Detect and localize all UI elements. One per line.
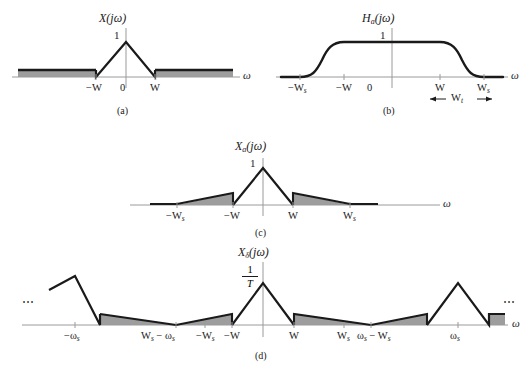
panel-d-ellipsis-right: ⋯	[503, 296, 516, 308]
panel-a-tick-label-negW: −W	[86, 83, 102, 94]
panel-a-amplitude-label: 1	[114, 30, 120, 41]
panel-d-amplitude-denominator: T	[242, 278, 258, 289]
panel-b-tick-label-W: W	[435, 83, 445, 94]
panel-d-tick-label-W: W	[289, 331, 299, 342]
panel-d-tick-Ws-sub: s	[347, 334, 350, 343]
spectra-figure	[0, 0, 527, 369]
panel-d-tick-label-negWs: −Ws	[196, 331, 215, 343]
panel-a-axis-label: ω	[243, 70, 251, 81]
panel-d-tick-ws-main: ω	[450, 330, 457, 341]
panel-d-tick-Wsmws-main: W	[141, 330, 151, 341]
panel-a-tick-label-zero: 0	[120, 83, 125, 94]
panel-c-title-tail: (jω)	[246, 139, 266, 153]
panel-d-ellipsis-left: ⋯	[22, 296, 35, 308]
panel-d-amplitude-fraction: 1 T	[242, 264, 258, 289]
panel-b	[276, 28, 508, 101]
panel-b-title-main: H	[362, 11, 371, 25]
panel-c-tick-Ws-main: W	[343, 210, 353, 221]
panel-d-replica-left	[49, 276, 100, 325]
panel-b-tick-label-Ws: Ws	[477, 83, 490, 95]
panel-c-axis-label: ω	[443, 198, 451, 209]
panel-d-tick-negWs-main: −W	[196, 330, 212, 341]
panel-b-tick-negWs-sub: s	[304, 86, 307, 95]
panel-b-title-tail: (jω)	[375, 11, 395, 25]
panel-c-caption: (c)	[255, 228, 266, 238]
panel-d-tick-negWs-sub: s	[212, 334, 215, 343]
panel-d-tick-label-Ws: Ws	[337, 331, 350, 343]
panel-d-tick-label-Ws-minus-ws: Ws − ωs	[141, 331, 175, 343]
panel-b-amplitude-label: 1	[380, 30, 386, 41]
panel-a-title: X(jω)	[99, 12, 126, 24]
panel-d-amplitude-numerator: 1	[242, 264, 258, 275]
panel-c-tick-Ws-sub: s	[353, 214, 356, 223]
panel-d-tick-label-negws: −ωs	[64, 331, 80, 343]
fraction-bar	[242, 276, 258, 277]
panel-d	[22, 262, 508, 337]
panel-d-title: Xδ(jω)	[238, 246, 269, 260]
panel-b-axis-label: ω	[511, 70, 519, 81]
panel-d-tick-label-ws: ωs	[450, 331, 460, 343]
panel-d-title-tail: (jω)	[249, 245, 269, 259]
panel-d-tick-ws-sub: s	[457, 334, 460, 343]
panel-b-tick-label-negW: −W	[336, 83, 352, 94]
panel-c-tick-label-negWs: −Ws	[166, 211, 185, 223]
panel-b-tick-label-negWs: −Ws	[288, 83, 307, 95]
panel-d-tick-label-negW: −W	[224, 331, 240, 342]
panel-b-tick-Ws-main: W	[477, 82, 487, 93]
panel-d-tick-Wsmws-tail: − ω	[154, 330, 172, 341]
panel-c-amplitude-label: 1	[250, 158, 256, 169]
panel-b-tick-Ws-sub: s	[487, 86, 490, 95]
panel-b-tick-negWs-main: −W	[288, 82, 304, 93]
panel-d-tick-Ws-main: W	[337, 330, 347, 341]
panel-c-tick-label-negW: −W	[224, 211, 240, 222]
panel-d-caption: (d)	[255, 351, 267, 361]
panel-d-shade-5	[489, 314, 505, 325]
panel-d-tick-Wsmws-tailsub: s	[172, 334, 175, 343]
panel-d-tick-wsmWs-tailsub: s	[388, 334, 391, 343]
panel-c	[130, 158, 440, 216]
panel-d-tick-label-ws-minus-Ws: ωs − Ws	[357, 331, 391, 343]
panel-b-transition-label: Wt	[451, 93, 463, 105]
panel-d-tick-wsmWs-main: ω	[357, 330, 364, 341]
panel-b-caption: (b)	[383, 106, 395, 116]
panel-d-tick-negws-main: −ω	[64, 330, 77, 341]
panel-c-tick-label-W: W	[288, 211, 298, 222]
panel-c-tick-negWs-sub: s	[182, 214, 185, 223]
panel-d-tick-negws-sub: s	[77, 334, 80, 343]
panel-a-caption: (a)	[117, 106, 128, 116]
panel-b-title: Ha(jω)	[362, 12, 394, 26]
panel-d-axis-label: ω	[512, 318, 520, 329]
panel-d-tick-wsmWs-tail: − W	[367, 330, 388, 341]
panel-b-transition-sub: t	[461, 96, 463, 105]
panel-c-title: Xa(jω)	[235, 140, 266, 154]
panel-c-tick-negWs-main: −W	[166, 210, 182, 221]
panel-a	[12, 28, 240, 88]
panel-b-tick-label-zero: 0	[367, 83, 372, 94]
panel-b-transition-main: W	[451, 92, 461, 103]
panel-c-tick-label-Ws: Ws	[343, 211, 356, 223]
panel-a-tick-label-W: W	[150, 83, 160, 94]
